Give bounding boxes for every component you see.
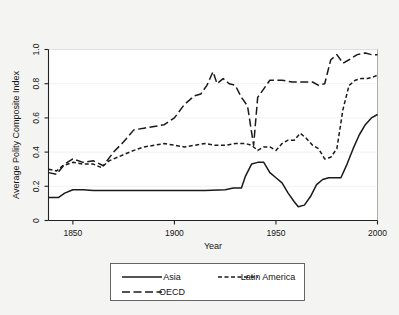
y-axis-title: Average Polity Composite Index — [11, 71, 21, 199]
y-tick-label: 1.0 — [31, 43, 41, 55]
legend-label-asia: Asia — [163, 272, 181, 282]
polity-index-line-chart: 00.20.40.60.81.0 1850190019502000 Averag… — [0, 0, 399, 315]
y-tick-label: 0.4 — [31, 146, 41, 158]
x-tick-label: 1850 — [63, 228, 82, 238]
y-tick-label: 0.8 — [31, 78, 41, 90]
x-axis-title: Year — [204, 241, 222, 251]
y-tick-label: 0 — [31, 218, 41, 223]
legend-label-oecd: OECD — [159, 287, 186, 297]
x-tick-label: 2000 — [368, 228, 387, 238]
y-tick-label: 0.2 — [31, 180, 41, 192]
x-tick-label: 1950 — [266, 228, 285, 238]
y-tick-label: 0.6 — [31, 112, 41, 124]
chart-figure: 00.20.40.60.81.0 1850190019502000 Averag… — [0, 0, 399, 315]
x-tick-label: 1900 — [165, 228, 184, 238]
plot-panel — [49, 50, 378, 221]
legend-label-latin-america: Latin America — [241, 272, 296, 282]
